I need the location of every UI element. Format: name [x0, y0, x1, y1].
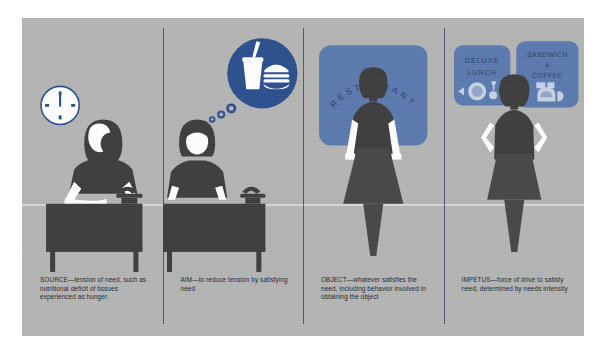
telephone-icon	[240, 187, 265, 204]
art-worker-at-desk-with-clock	[22, 18, 163, 276]
desk	[163, 204, 265, 272]
art-worker-thinking-of-food	[163, 18, 304, 276]
caption-aim: AIM—to reduce tension by satisfying need	[163, 276, 304, 336]
sandwich-sign-line3: COFFEE	[532, 72, 562, 79]
caption-source: SOURCE—tension of need, such as nutritio…	[22, 276, 163, 336]
clock-icon	[41, 86, 79, 124]
person-seated	[167, 119, 227, 199]
desk	[46, 204, 142, 272]
caption-object: OBJECT—whatever satisfies the need, incl…	[303, 276, 444, 336]
panel-object: RESTAURANT	[303, 18, 444, 336]
thought-bubble	[202, 38, 297, 126]
illustration-plate: SOURCE—tension of need, such as nutritio…	[22, 18, 584, 336]
panel-row: SOURCE—tension of need, such as nutritio…	[22, 18, 584, 336]
caption-impetus: IMPETUS—force of drive to satisfy need, …	[444, 276, 585, 336]
figure-page: SOURCE—tension of need, such as nutritio…	[0, 0, 603, 350]
panel-aim: AIM—to reduce tension by satisfying need	[163, 18, 304, 336]
deluxe-sign-line1: DELUXE	[464, 57, 499, 64]
panel-source: SOURCE—tension of need, such as nutritio…	[22, 18, 163, 336]
sandwich-sign-line1: SANDWICH	[526, 51, 567, 58]
art-woman-before-restaurant-sign: RESTAURANT	[303, 18, 444, 276]
deluxe-sign-line2: LUNCH	[467, 69, 497, 76]
sandwich-sign-line2: &	[545, 62, 549, 68]
art-woman-before-menu-signs: DELUXE LUNCH	[444, 18, 585, 276]
panel-impetus: DELUXE LUNCH	[444, 18, 585, 336]
